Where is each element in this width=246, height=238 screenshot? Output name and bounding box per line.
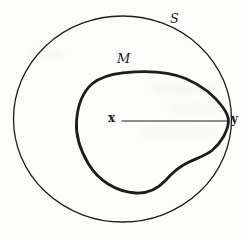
label-region-M: M <box>117 52 130 65</box>
label-point-y: y <box>231 113 238 125</box>
set-diagram-figure: S M x y <box>0 0 246 238</box>
label-sphere-S: S <box>170 12 179 25</box>
label-point-x: x <box>108 112 115 124</box>
region-M-boundary <box>76 72 228 193</box>
diagram-canvas <box>0 0 246 238</box>
